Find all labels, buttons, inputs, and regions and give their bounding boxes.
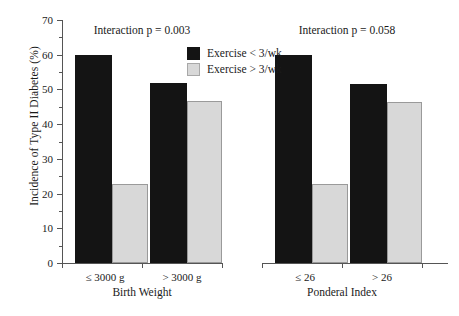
x-tick-left-2 bbox=[222, 263, 223, 268]
x-axis-right: ≤ 26 > 26 Ponderal Index bbox=[262, 263, 448, 264]
x-axis-left: ≤ 3000 g > 3000 g Birth Weight bbox=[62, 263, 223, 264]
x-label-right-1: > 26 bbox=[372, 271, 392, 283]
x-tick-left-0 bbox=[62, 263, 63, 268]
x-tick-right-0 bbox=[262, 263, 263, 268]
plot-area-right bbox=[262, 20, 422, 263]
legend-swatch-dark-icon bbox=[187, 47, 200, 60]
chart-legend: Exercise < 3/wk Exercise > 3/wk bbox=[187, 45, 282, 77]
legend-label-1: Exercise > 3/wk bbox=[207, 63, 282, 75]
bar-left-cat1-light bbox=[187, 101, 222, 263]
bar-right-cat0-dark bbox=[275, 55, 312, 263]
x-tick-right-1 bbox=[342, 263, 343, 268]
legend-label-0: Exercise < 3/wk bbox=[207, 47, 282, 59]
x-axis-title-right: Ponderal Index bbox=[307, 286, 377, 298]
x-tick-left-1 bbox=[142, 263, 143, 268]
bar-left-cat1-dark bbox=[150, 83, 187, 263]
legend-item-exercise-gt: Exercise > 3/wk bbox=[187, 61, 282, 77]
chart-figure: Incidence of Type II Diabetes (%) 010203… bbox=[0, 0, 459, 316]
bar-right-cat1-dark bbox=[350, 84, 387, 263]
bar-right-cat0-light bbox=[312, 184, 348, 263]
bar-left-cat0-light bbox=[112, 184, 148, 263]
bar-right-cat1-light bbox=[387, 102, 422, 263]
bar-left-cat0-dark bbox=[75, 55, 112, 263]
legend-item-exercise-lt: Exercise < 3/wk bbox=[187, 45, 282, 61]
x-label-left-0: ≤ 3000 g bbox=[85, 271, 124, 283]
x-tick-right-2 bbox=[422, 263, 423, 268]
x-label-left-1: > 3000 g bbox=[162, 271, 201, 283]
x-axis-title-left: Birth Weight bbox=[112, 286, 171, 298]
x-label-right-0: ≤ 26 bbox=[295, 271, 315, 283]
legend-swatch-light-icon bbox=[187, 63, 200, 76]
